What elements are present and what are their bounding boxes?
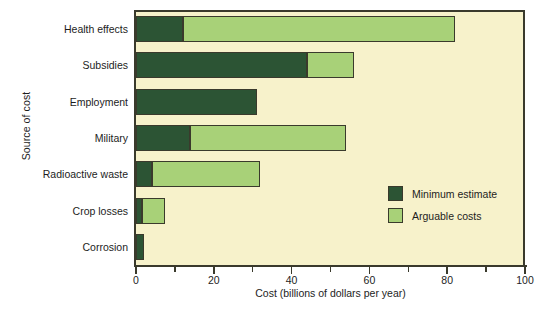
x-axis-tick-100 (524, 267, 526, 274)
bar-segment-minimum-estimate (136, 52, 307, 78)
bar-segment-arguable-costs (152, 161, 261, 187)
x-axis-tick-label-20: 20 (208, 274, 220, 286)
bar-row (0, 52, 558, 78)
bar-segment-arguable-costs (183, 16, 455, 42)
bar-row (0, 125, 558, 151)
x-axis-tick-40 (291, 267, 293, 274)
bar-segment-minimum-estimate (136, 16, 183, 42)
x-axis-minor-tick-70 (408, 267, 410, 272)
x-axis-tick-0 (135, 267, 137, 274)
x-axis-minor-tick-50 (330, 267, 332, 272)
x-axis-minor-tick-90 (485, 267, 487, 272)
bar-segment-arguable-costs (190, 125, 346, 151)
legend-swatch-minimum-estimate (388, 186, 403, 201)
bar-row (0, 16, 558, 42)
x-axis-tick-label-100: 100 (516, 274, 534, 286)
legend-item-minimum-estimate: Minimum estimate (388, 186, 497, 201)
bar-segment-arguable-costs (307, 52, 354, 78)
legend-label-arguable-costs: Arguable costs (412, 210, 481, 222)
legend-item-arguable-costs: Arguable costs (388, 208, 497, 223)
x-axis-tick-80 (446, 267, 448, 274)
bar-segment-minimum-estimate (136, 234, 144, 260)
x-axis-title: Cost (billions of dollars per year) (136, 287, 525, 299)
legend-label-minimum-estimate: Minimum estimate (412, 188, 497, 200)
bar-segment-minimum-estimate (136, 125, 190, 151)
x-axis-minor-tick-30 (252, 267, 254, 272)
bar-chart: Source of cost 020406080100 Health effec… (0, 0, 558, 312)
bar-row (0, 234, 558, 260)
bar-row (0, 89, 558, 115)
x-axis-tick-label-60: 60 (364, 274, 376, 286)
bar-segment-arguable-costs (142, 198, 165, 224)
bar-segment-minimum-estimate (136, 161, 152, 187)
bar-row (0, 161, 558, 187)
bar-segment-minimum-estimate (136, 89, 257, 115)
x-axis-tick-label-80: 80 (441, 274, 453, 286)
x-axis-tick-60 (369, 267, 371, 274)
chart-legend: Minimum estimate Arguable costs (388, 186, 497, 230)
x-axis-tick-label-40: 40 (286, 274, 298, 286)
x-axis-tick-label-0: 0 (133, 274, 139, 286)
x-axis-tick-20 (213, 267, 215, 274)
x-axis-minor-tick-10 (174, 267, 176, 272)
legend-swatch-arguable-costs (388, 208, 403, 223)
